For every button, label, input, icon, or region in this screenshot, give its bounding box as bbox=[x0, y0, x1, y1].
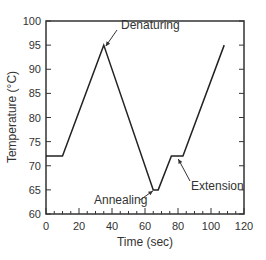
y-tick-label: 80 bbox=[29, 112, 41, 124]
temperature-line bbox=[46, 45, 224, 190]
pcr-temperature-chart: 6065707580859095100 020406080100120 Dena… bbox=[0, 0, 266, 260]
y-tick-label: 65 bbox=[29, 184, 41, 196]
annotations: DenaturingAnnealingExtension bbox=[94, 18, 244, 207]
y-axis-label: Temperature (°C) bbox=[5, 71, 19, 163]
y-tick-label: 75 bbox=[29, 136, 41, 148]
y-tick-label: 60 bbox=[29, 208, 41, 220]
y-tick-label: 95 bbox=[29, 39, 41, 51]
x-axis-ticks: 020406080100120 bbox=[43, 208, 253, 232]
x-tick-label: 40 bbox=[106, 220, 118, 232]
x-tick-label: 20 bbox=[73, 220, 85, 232]
y-tick-label: 85 bbox=[29, 87, 41, 99]
x-tick-label: 0 bbox=[43, 220, 49, 232]
y-tick-label: 70 bbox=[29, 160, 41, 172]
x-tick-label: 60 bbox=[139, 220, 151, 232]
x-tick-label: 100 bbox=[202, 220, 220, 232]
x-tick-label: 120 bbox=[235, 220, 253, 232]
annotation-annealing: Annealing bbox=[94, 193, 147, 207]
annotation-extension: Extension bbox=[191, 179, 244, 193]
annotation-denaturing: Denaturing bbox=[121, 18, 180, 32]
y-tick-label: 90 bbox=[29, 63, 41, 75]
x-axis-label: Time (sec) bbox=[117, 235, 173, 249]
y-tick-label: 100 bbox=[23, 15, 41, 27]
x-tick-label: 80 bbox=[172, 220, 184, 232]
